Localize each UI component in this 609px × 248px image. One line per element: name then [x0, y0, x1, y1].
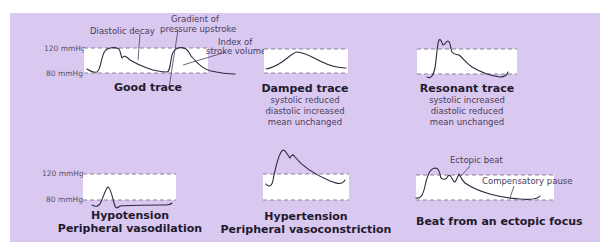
title-peripheral-vasoconstriction: Peripheral vasoconstriction	[221, 223, 392, 236]
panel-hypertension: Hypertension Peripheral vasoconstriction	[221, 150, 392, 236]
annotation-gradient-2: pressure upstroke	[160, 24, 236, 34]
normal-range-box	[83, 174, 176, 200]
panel-good-trace: 120 mmHg 80 mmHg Diastolic decay Gradien…	[44, 14, 266, 94]
damped-subtitle-3: mean unchanged	[268, 117, 342, 127]
panel-hypotension: 120 mmHg 80 mmHg Hypotension Peripheral …	[42, 169, 202, 235]
axis-label-120: 120 mmHg	[42, 169, 84, 178]
panel-ectopic-beat: Ectopic beat Compensatory pause Beat fro…	[416, 155, 583, 228]
normal-range-box	[417, 49, 517, 74]
damped-subtitle-2: diastolic increased	[265, 106, 344, 116]
normal-range-box	[84, 48, 208, 73]
title-damped-trace: Damped trace	[261, 82, 348, 95]
annotation-ectopic-beat: Ectopic beat	[450, 155, 504, 165]
panel-resonant-trace: Resonant trace systolic increased diasto…	[417, 40, 517, 127]
title-resonant-trace: Resonant trace	[420, 82, 514, 95]
annotation-diastolic-decay: Diastolic decay	[90, 26, 155, 36]
title-hypotension: Hypotension	[91, 209, 169, 222]
annotation-gradient-1: Gradient of	[171, 14, 220, 24]
resonant-subtitle-1: systolic increased	[429, 95, 505, 105]
title-ectopic-beat: Beat from an ectopic focus	[416, 215, 583, 228]
annotation-compensatory-pause: Compensatory pause	[482, 176, 572, 186]
resonant-subtitle-2: diastolic reduced	[431, 106, 504, 116]
title-hypertension: Hypertension	[264, 210, 347, 223]
resonant-subtitle-3: mean unchanged	[430, 117, 504, 127]
axis-label-120: 120 mmHg	[44, 44, 86, 53]
title-good-trace: Good trace	[114, 81, 182, 94]
normal-range-box	[264, 49, 348, 73]
title-peripheral-vasodilation: Peripheral vasodilation	[58, 222, 202, 235]
damped-subtitle-1: systolic reduced	[270, 95, 339, 105]
axis-label-80: 80 mmHg	[46, 195, 83, 204]
panel-damped-trace: Damped trace systolic reduced diastolic …	[261, 49, 348, 127]
normal-range-box	[263, 174, 349, 200]
arterial-waveform-diagram: 120 mmHg 80 mmHg Diastolic decay Gradien…	[0, 0, 609, 248]
axis-label-80: 80 mmHg	[46, 69, 83, 78]
annotation-index-2: stroke volume	[206, 46, 266, 56]
